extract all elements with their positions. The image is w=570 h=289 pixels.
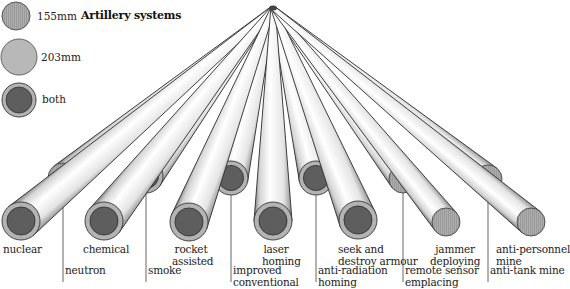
legend-203mm [1,39,37,75]
label-improved-line2: conventional [233,276,299,288]
legend-both [2,83,36,117]
label-chemical: chemical [83,243,129,255]
label-antirad-line1: anti-radiation [318,264,388,276]
label-improved-line1: improved [233,264,299,276]
label-remote-sensor-emplacing: remote sensor emplacing [405,264,479,288]
tube-end-both [85,202,123,240]
label-rocket-line1: rocket [172,243,210,255]
tube-end-155mm [432,208,460,236]
tube-end-both [170,203,208,241]
tube-end-both [2,202,40,240]
label-nuclear: nuclear [3,243,42,255]
legend [1,2,37,117]
apex-knot [269,6,277,11]
label-seek-line1: seek and [338,243,418,255]
diagram-title: Artillery systems [81,9,181,22]
label-antipers-line1: anti-personnel [496,243,570,255]
legend-label-both: both [42,93,66,105]
label-neutron: neutron [65,264,106,276]
label-antirad-line2: homing [318,276,388,288]
tube-end-both [254,202,292,240]
legend-155mm [2,2,30,30]
label-anti-radiation-homing: anti-radiation homing [318,264,388,288]
label-jammer-line1: jammer [430,243,480,255]
tubes-layer [2,6,545,283]
legend-label-155mm: 155mm [37,10,77,22]
legend-label-203mm: 203mm [41,51,81,63]
label-anti-tank-mine: anti-tank mine [490,264,565,276]
label-remote-line2: emplacing [405,276,479,288]
label-improved-conventional: improved conventional [233,264,299,288]
tube-end-155mm [517,208,545,236]
label-laser-line1: laser [256,243,296,255]
label-smoke: smoke [148,264,181,276]
label-remote-line1: remote sensor [405,264,479,276]
tube-end-both [339,201,377,239]
